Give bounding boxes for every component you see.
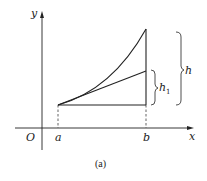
diagram-canvas: y O a b x h h 1 (a): [0, 0, 207, 181]
point-b-label: b: [143, 131, 150, 144]
origin-label: O: [26, 131, 35, 144]
y-axis-label: y: [30, 7, 38, 20]
brace-h-icon: [176, 32, 184, 105]
figure-caption: (a): [95, 158, 106, 170]
h1-subscript: 1: [166, 88, 170, 96]
y-axis-arrow-icon: [40, 11, 44, 18]
straight-line: [58, 71, 146, 105]
y-axis: [40, 11, 44, 150]
point-a-label: a: [55, 131, 62, 144]
h-label: h: [185, 64, 192, 77]
diagram-svg: y O a b x h h 1 (a): [0, 0, 207, 181]
x-axis-label: x: [189, 130, 196, 143]
brace-h1-icon: [151, 70, 158, 105]
curve: [58, 29, 146, 105]
